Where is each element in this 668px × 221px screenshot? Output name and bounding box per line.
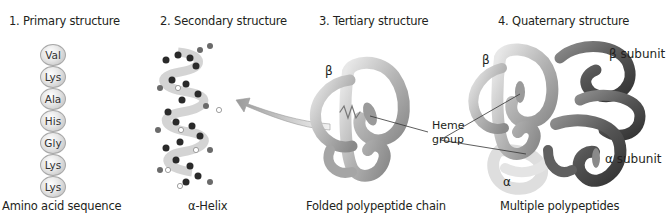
- panel-tertiary-title: 3. Tertiary structure: [319, 14, 428, 28]
- panel-tertiary-caption: Folded polypeptide chain: [306, 199, 446, 213]
- heme-label-line1: Heme: [432, 119, 465, 132]
- beta-subunit-label: β subunit: [609, 47, 665, 61]
- protein-structure-artwork: [0, 0, 668, 221]
- residue-bead: Lys: [40, 66, 66, 88]
- panel-quaternary-title: 4. Quaternary structure: [498, 14, 629, 28]
- alpha-subunit-label: α subunit: [605, 152, 661, 166]
- tertiary-fold-model: [315, 63, 403, 176]
- residue-bead: His: [40, 110, 66, 132]
- panel-primary-caption: Amino acid sequence: [2, 199, 121, 213]
- residue-bead: Ala: [40, 88, 66, 110]
- beta-label: β: [325, 64, 333, 78]
- residue-bead: Lys: [40, 154, 66, 176]
- panel-secondary-title: 2. Secondary structure: [160, 14, 287, 28]
- heme-label-line2: group: [432, 133, 464, 146]
- amino-acid-chain: Val Lys Ala His Gly Lys Lys: [40, 44, 70, 198]
- beta-label: β: [482, 53, 490, 67]
- residue-bead: Gly: [40, 132, 66, 154]
- residue-bead: Val: [40, 44, 66, 66]
- panel-quaternary-caption: Multiple polypeptides: [500, 199, 619, 213]
- alpha-label: α: [503, 175, 511, 189]
- residue-bead: Lys: [40, 176, 66, 198]
- panel-primary-title: 1. Primary structure: [9, 14, 120, 28]
- alpha-helix-model: [155, 43, 222, 189]
- quaternary-complex-model: [473, 47, 640, 189]
- panel-secondary-caption: α-Helix: [188, 199, 227, 213]
